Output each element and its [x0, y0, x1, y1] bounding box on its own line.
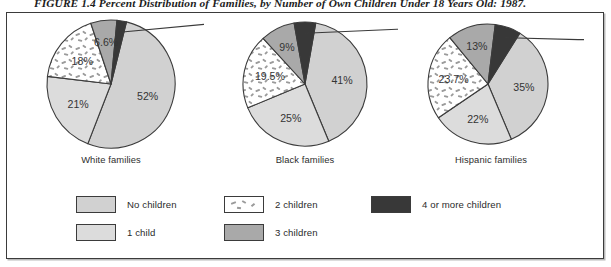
pie-slice-label-0-two_children: 18%	[72, 55, 94, 67]
legend-label-4-or-more-children: 4 or more children	[422, 199, 501, 210]
legend-swatch-dash	[231, 201, 236, 205]
legend-item-1-child: 1 child	[76, 224, 155, 241]
pie-slice-label-2-no_children: 35%	[513, 81, 535, 93]
pie-slice-label-0-one_child: 21%	[67, 98, 89, 110]
legend-item-no-children: No children	[76, 196, 177, 213]
pie-slice-label-0-three_children: 6.6%	[94, 36, 119, 48]
pie-chart-hispanic-families: 35%22%23.7%13%7%	[398, 16, 584, 158]
legend-swatch-no-children	[76, 196, 116, 213]
pie-slice-label-2-three_children: 13%	[466, 40, 488, 52]
legend-swatch-1-child	[76, 224, 116, 241]
pie-caption-2: Hispanic families	[398, 154, 584, 165]
pie-svg-2: 35%22%23.7%13%7%	[398, 16, 584, 158]
legend-swatch-dash	[251, 203, 255, 207]
pie-caption-0: White families	[18, 154, 204, 165]
pie-chart-black-families: 41%25%19.5%9%5.6%	[212, 16, 398, 158]
legend-swatch-3-children	[224, 224, 264, 241]
legend-label-1-child: 1 child	[127, 227, 155, 238]
pie-slice-label-0-no_children: 52%	[137, 90, 159, 102]
pie-slice-label-1-two_children: 19.5%	[255, 70, 286, 82]
pie-chart-white-families: 52%21%18%6.6%2.4%	[18, 16, 204, 158]
legend-label-2-children: 2 children	[275, 199, 318, 210]
pie-slice-label-1-three_children: 9%	[279, 41, 295, 53]
pie-caption-1: Black families	[212, 154, 398, 165]
legend-item-2-children: 2 children	[224, 196, 318, 213]
legend-swatch-dash	[242, 200, 246, 204]
pie-svg-0: 52%21%18%6.6%2.4%	[18, 16, 204, 158]
legend-swatch-dash	[237, 207, 241, 210]
figure-title: FIGURE 1.4 Percent Distribution of Famil…	[34, 0, 594, 11]
pie-slice-label-1-no_children: 41%	[331, 74, 353, 86]
pie-slice-label-2-one_child: 22%	[467, 113, 489, 125]
legend-item-3-children: 3 children	[224, 224, 318, 241]
legend-label-3-children: 3 children	[275, 227, 318, 238]
pie-svg-1: 41%25%19.5%9%5.6%	[212, 16, 398, 158]
pie-slice-label-1-one_child: 25%	[280, 112, 302, 124]
legend-swatch-2-children	[224, 196, 264, 213]
pie-slice-label-2-two_children: 23.7%	[439, 73, 470, 85]
legend: No children 1 child 2 children 3 childre…	[76, 196, 576, 252]
legend-swatch-4-or-more-children	[371, 196, 411, 213]
legend-item-4-or-more-children: 4 or more children	[371, 196, 501, 213]
legend-label-no-children: No children	[127, 199, 177, 210]
